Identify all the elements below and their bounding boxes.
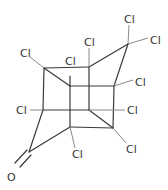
cl-label: Cl [124,13,135,26]
cl-label: Cl [126,143,137,156]
cl-label: Cl [127,104,138,117]
cl-label: Cl [16,104,27,117]
chemical-structure: Cl Cl Cl Cl Cl Cl Cl Cl Cl Cl O [0,0,168,190]
atom-labels: Cl Cl Cl Cl Cl Cl Cl Cl Cl Cl O [7,13,161,184]
cl-label: Cl [20,47,31,60]
cl-label: Cl [150,34,161,47]
cl-label: Cl [84,36,95,49]
oxygen-label: O [7,171,16,184]
cl-label: Cl [65,55,76,68]
cl-label: Cl [135,76,146,89]
cl-label: Cl [72,148,83,161]
